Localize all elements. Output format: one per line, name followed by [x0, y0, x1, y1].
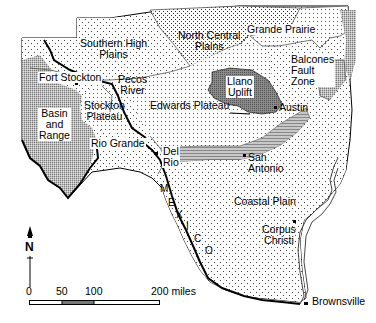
scale-tick-100: 100: [85, 286, 103, 297]
label-basin-and-range: Basin and Range: [38, 108, 71, 141]
scale-bar: [30, 300, 160, 305]
scale-tick-50: 50: [56, 286, 68, 297]
north-arrow-label: N: [25, 242, 34, 253]
label-pecos-river: Pecos River: [118, 74, 147, 96]
label-stockton-plateau: Stockton Plateau: [84, 100, 125, 122]
label-corpus-christi: Corpus Christi: [262, 224, 296, 246]
city-dot-austin: [274, 106, 277, 109]
label-edwards-plateau: Edwards Plateau: [150, 100, 229, 111]
label-coastal-plain: Coastal Plain: [234, 196, 296, 207]
north-arrow: [27, 226, 33, 287]
label-austin: Austin: [279, 102, 308, 113]
label-rio-grande: Rio Grande: [90, 138, 146, 149]
label-mexico-e: E: [168, 197, 175, 208]
label-mexico-x: X: [176, 209, 183, 220]
label-mexico-c: C: [194, 233, 201, 244]
label-southern-high-plains: Southern High Plains: [80, 38, 147, 60]
city-dot-brownsville: [304, 302, 308, 305]
label-san-antonio: San Antonio: [248, 152, 284, 174]
label-fort-stockton: Fort Stockton: [38, 72, 102, 83]
label-brownsville: Brownsville: [312, 296, 365, 307]
scale-tick-200-miles: 200 miles: [151, 286, 196, 297]
scale-tick-0: 0: [26, 286, 32, 297]
label-grande-prairie: Grande Prairie: [246, 24, 316, 35]
label-mexico-o: O: [205, 245, 213, 256]
label-balcones-fault-zone: Balcones Fault Zone: [290, 54, 335, 87]
label-llano-uplift: Llano Uplift: [226, 76, 254, 98]
label-mexico-i: I: [186, 220, 189, 231]
city-dot-san-antonio: [243, 154, 246, 157]
label-north-central-plains: North Central Plains: [178, 30, 240, 52]
label-mexico-m: M: [160, 183, 168, 194]
city-dot-del-rio: [155, 152, 158, 155]
label-del-rio: Del Rio: [162, 146, 180, 168]
